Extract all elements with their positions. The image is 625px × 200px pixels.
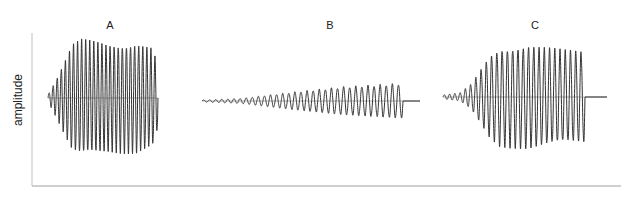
- chart-svg: amplitude A B C: [0, 0, 625, 200]
- panel-a-label: A: [106, 19, 114, 31]
- panel-a-waveform: [48, 39, 158, 154]
- panel-b: B: [202, 19, 420, 118]
- y-axis-label: amplitude: [11, 74, 25, 126]
- chart-figure: amplitude A B C: [0, 0, 625, 200]
- panel-c-label: C: [531, 19, 539, 31]
- panel-b-label: B: [326, 19, 333, 31]
- panel-c-waveform: [443, 47, 607, 149]
- panel-c: C: [443, 19, 607, 149]
- panel-a: A: [48, 19, 158, 154]
